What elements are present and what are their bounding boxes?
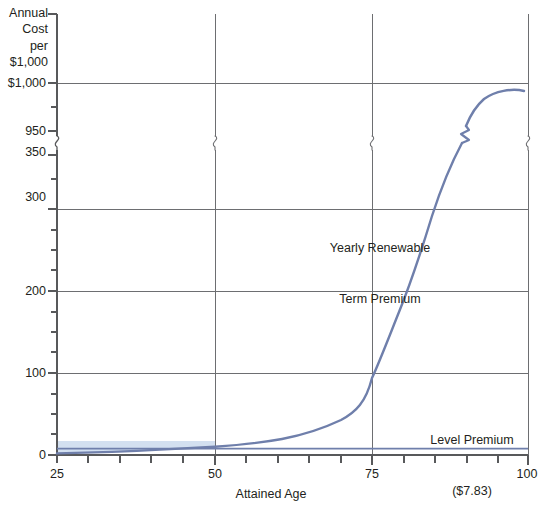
annotation-yrt-line2: Term Premium bbox=[300, 291, 460, 308]
annotation-level-line2: ($7.83) bbox=[412, 483, 532, 500]
y-tick-label-300: 300 bbox=[0, 190, 46, 204]
y-tick-label-100: 100 bbox=[0, 366, 46, 380]
x-tick-label-25: 25 bbox=[27, 467, 87, 481]
x-tick-label-75: 75 bbox=[342, 467, 402, 481]
annotation-yrt-line1: Yearly Renewable bbox=[300, 240, 460, 257]
annotation-level-premium: Level Premium ($7.83) bbox=[412, 398, 532, 522]
y-axis-break-mark bbox=[55, 136, 58, 150]
y-axis-major-ticks bbox=[48, 14, 57, 455]
y-tick-label-350: 350 bbox=[0, 145, 46, 159]
axis-break-marks bbox=[213, 136, 529, 150]
y-tick-label-200: 200 bbox=[0, 284, 46, 298]
curve-break-mark bbox=[461, 126, 469, 143]
chart-container: Annual Cost per $1,000 Attained Age $1,0… bbox=[0, 0, 542, 522]
y-tick-label-1000: $1,000 bbox=[0, 76, 46, 90]
y-tick-label-950: 950 bbox=[0, 124, 46, 138]
y-axis-title: Annual Cost per $1,000 bbox=[0, 5, 48, 71]
annotation-level-line1: Level Premium bbox=[412, 432, 532, 449]
yrt-premium-curve-upper bbox=[466, 90, 524, 126]
y-axis-minor-ticks bbox=[51, 107, 57, 434]
x-tick-label-50: 50 bbox=[185, 467, 245, 481]
y-tick-label-0: 0 bbox=[0, 448, 46, 462]
annotation-yearly-renewable-term: Yearly Renewable Term Premium bbox=[300, 206, 460, 342]
